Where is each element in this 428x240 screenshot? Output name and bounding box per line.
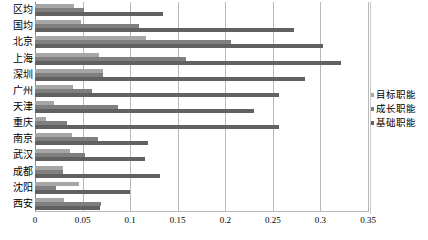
plot-area bbox=[35, 2, 368, 212]
y-axis-label: 天津 bbox=[13, 102, 33, 112]
legend-label: 成长职能 bbox=[376, 104, 416, 115]
bar bbox=[35, 174, 160, 178]
y-axis-label: 沈阳 bbox=[13, 183, 33, 193]
bar-group bbox=[35, 83, 368, 99]
bar-group bbox=[35, 147, 368, 163]
bar bbox=[35, 93, 279, 97]
y-axis-label: 北京 bbox=[13, 37, 33, 47]
x-axis-tick: 0.15 bbox=[170, 214, 186, 226]
y-axis-label: 南京 bbox=[13, 134, 33, 144]
bar-group bbox=[35, 2, 368, 18]
bar bbox=[35, 157, 145, 161]
y-axis-label: 国均 bbox=[13, 21, 33, 31]
axis-baseline bbox=[35, 211, 368, 212]
x-axis-tick-labels: 00.050.10.150.20.250.30.35 bbox=[35, 214, 368, 230]
y-axis-category-labels: 区均国均北京上海深圳广州天津重庆南京武汉成都沈阳西安 bbox=[0, 2, 35, 212]
bar bbox=[35, 61, 341, 65]
bar bbox=[35, 44, 323, 48]
bar-group bbox=[35, 50, 368, 66]
bar-group bbox=[35, 99, 368, 115]
y-axis-label: 上海 bbox=[13, 54, 33, 64]
bar-group bbox=[35, 180, 368, 196]
chart-legend: 目标职能成长职能基础职能 bbox=[370, 88, 428, 130]
x-axis-tick: 0 bbox=[33, 214, 38, 226]
bar bbox=[35, 125, 279, 129]
bar-group bbox=[35, 196, 368, 212]
bar-group bbox=[35, 18, 368, 34]
bar-group bbox=[35, 131, 368, 147]
bar bbox=[35, 28, 294, 32]
legend-item[interactable]: 成长职能 bbox=[370, 102, 428, 116]
y-axis-label: 西安 bbox=[13, 199, 33, 209]
legend-label: 基础职能 bbox=[376, 118, 416, 129]
bar bbox=[35, 12, 163, 16]
legend-label: 目标职能 bbox=[376, 90, 416, 101]
bar bbox=[35, 190, 130, 194]
legend-item[interactable]: 目标职能 bbox=[370, 88, 428, 102]
bar-group bbox=[35, 34, 368, 50]
bar bbox=[35, 141, 148, 145]
bar-group bbox=[35, 115, 368, 131]
y-axis-label: 区均 bbox=[13, 5, 33, 15]
gridline bbox=[368, 2, 369, 212]
x-axis-tick: 0.3 bbox=[315, 214, 326, 226]
legend-item[interactable]: 基础职能 bbox=[370, 116, 428, 130]
bar bbox=[35, 206, 100, 210]
bar bbox=[35, 77, 305, 81]
x-axis-tick: 0.1 bbox=[125, 214, 136, 226]
y-axis-label: 重庆 bbox=[13, 118, 33, 128]
legend-divider bbox=[370, 2, 371, 214]
bar bbox=[35, 109, 254, 113]
x-axis-tick: 0.2 bbox=[220, 214, 231, 226]
y-axis-label: 武汉 bbox=[13, 150, 33, 160]
bar-group bbox=[35, 67, 368, 83]
x-axis-tick: 0.25 bbox=[265, 214, 281, 226]
bar-group bbox=[35, 164, 368, 180]
x-axis-tick: 0.05 bbox=[75, 214, 91, 226]
y-axis-label: 广州 bbox=[13, 86, 33, 96]
y-axis-label: 成都 bbox=[13, 167, 33, 177]
x-axis-tick: 0.35 bbox=[360, 214, 376, 226]
bar-chart: 区均国均北京上海深圳广州天津重庆南京武汉成都沈阳西安 00.050.10.150… bbox=[0, 0, 428, 240]
y-axis-label: 深圳 bbox=[13, 70, 33, 80]
